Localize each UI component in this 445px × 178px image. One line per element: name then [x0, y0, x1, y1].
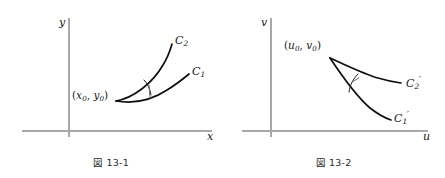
paren-close: )	[104, 89, 108, 101]
point-label-x0y0: (x0, y0)	[72, 90, 108, 102]
figure-sheet: y x (x0, y0) C2 C1 図 13-1	[0, 0, 445, 178]
curve-label-c2-prime: C2′	[406, 75, 421, 90]
curve-c2-subscript: 2	[184, 39, 189, 48]
point-var-u: u	[288, 39, 295, 51]
curve-c1-prime-path	[330, 58, 391, 120]
curve-c1-prime-mark: ′	[407, 109, 409, 120]
curve-c2-prime-path	[330, 58, 401, 83]
curve-label-c2: C2	[175, 35, 188, 47]
figure-panel-right: v u (u0, v0) C2′ C1′ 図 13-2	[222, 0, 445, 178]
curve-c1-prime-name: C	[394, 112, 402, 125]
y-axis-label: y	[59, 17, 65, 28]
u-axis-label: u	[423, 131, 430, 142]
curve-label-c1: C1	[192, 66, 205, 78]
curve-c2-prime-name: C	[406, 77, 414, 90]
curve-c1-subscript: 1	[201, 70, 206, 79]
curve-c2-prime-mark: ′	[419, 74, 421, 85]
panel-left-graphic	[0, 0, 222, 178]
curve-c2-name: C	[175, 34, 183, 47]
x-axis-label: x	[207, 131, 213, 142]
curve-label-c1-prime: C1′	[394, 110, 409, 125]
v-axis-label: v	[261, 17, 267, 28]
caption-figure-13-2: 図 13-2	[222, 155, 445, 169]
point-label-u0v0: (u0, v0)	[284, 40, 321, 52]
caption-figure-13-1: 図 13-1	[0, 155, 222, 169]
figure-panel-left: y x (x0, y0) C2 C1 図 13-1	[0, 0, 222, 178]
paren-close-prime: )	[317, 39, 321, 51]
angle-tick-mark	[149, 85, 150, 98]
curve-c1-name: C	[192, 65, 200, 78]
